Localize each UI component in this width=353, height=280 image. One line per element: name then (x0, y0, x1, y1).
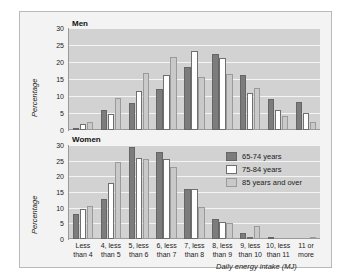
bar (156, 89, 162, 130)
bar-group (153, 28, 181, 130)
bar (129, 147, 135, 239)
bar-group (69, 145, 97, 239)
bar (219, 222, 225, 239)
y-tick-label: 25 (56, 42, 64, 49)
y-tick-label: 15 (56, 189, 64, 196)
y-tick-label: 30 (56, 142, 64, 149)
bar (115, 98, 121, 130)
bar-group (125, 145, 153, 239)
bar (143, 159, 149, 239)
bar (73, 214, 79, 239)
bar (108, 183, 114, 239)
legend-label: 85 years and over (242, 178, 302, 187)
bar (115, 162, 121, 239)
y-tick-label: 0 (60, 236, 64, 243)
bar (247, 237, 253, 239)
bar-group (153, 145, 181, 239)
y-tick-label: 20 (56, 173, 64, 180)
bar (282, 116, 288, 130)
bar (143, 73, 149, 130)
bar (296, 102, 302, 130)
legend-swatch (226, 165, 237, 174)
plot-area-men (69, 28, 320, 130)
bar (80, 209, 86, 239)
bar (170, 57, 176, 130)
y-tick-label: 10 (56, 93, 64, 100)
bar (129, 103, 135, 130)
legend: 65-74 years75-84 years85 years and over (226, 151, 326, 191)
bar (163, 75, 169, 130)
bar (136, 91, 142, 130)
bar (254, 226, 260, 239)
panel-title-men: Men (72, 20, 88, 28)
bar (87, 122, 93, 130)
bar-group (181, 28, 209, 130)
bar (212, 219, 218, 239)
legend-label: 75-84 years (242, 165, 282, 174)
bar (226, 223, 232, 239)
y-axis-ticks-men: 051015202530 (42, 28, 64, 130)
legend-label: 65-74 years (242, 152, 282, 161)
bar (163, 159, 169, 239)
bar-group (264, 28, 292, 130)
bar (268, 237, 274, 239)
y-tick-label: 15 (56, 76, 64, 83)
bar (136, 158, 142, 239)
y-tick-label: 0 (60, 127, 64, 134)
y-tick-label: 5 (60, 110, 64, 117)
y-axis-title-men: Percentage (30, 79, 39, 117)
panel-title-women: Women (72, 136, 101, 144)
bar (108, 114, 114, 130)
bar (80, 124, 86, 130)
y-tick-label: 25 (56, 157, 64, 164)
bar (87, 206, 93, 239)
bar (275, 110, 281, 130)
bar-group (236, 28, 264, 130)
bar (73, 128, 79, 130)
y-axis-ticks-women: 051015202530 (42, 145, 64, 239)
x-tick-label: 11 or more (288, 242, 324, 259)
bar (184, 189, 190, 239)
bar (226, 74, 232, 130)
bar (212, 54, 218, 130)
legend-swatch (226, 152, 237, 161)
bar (240, 75, 246, 130)
bar (191, 51, 197, 130)
bar (254, 88, 260, 130)
bar-group (181, 145, 209, 239)
bar-group (292, 28, 320, 130)
y-tick-label: 5 (60, 220, 64, 227)
bar-group (125, 28, 153, 130)
legend-swatch (226, 178, 237, 187)
bar-group (208, 28, 236, 130)
bar (101, 110, 107, 130)
bar-group (69, 28, 97, 130)
bar (170, 167, 176, 239)
bar (310, 122, 316, 130)
bar (198, 77, 204, 130)
bar (247, 93, 253, 130)
y-tick-label: 10 (56, 204, 64, 211)
bar (101, 199, 107, 239)
y-tick-label: 30 (56, 25, 64, 32)
bar (198, 207, 204, 239)
x-axis-title: Daily energy intake (MJ) (216, 262, 297, 271)
figure-frame: Men Percentage 051015202530 Women Percen… (19, 11, 332, 268)
bar (303, 113, 309, 130)
bar (268, 99, 274, 130)
bar (191, 189, 197, 239)
bar (310, 237, 316, 239)
bar (184, 67, 190, 130)
y-axis-title-women: Percentage (30, 196, 39, 234)
bar (240, 233, 246, 239)
y-tick-label: 20 (56, 59, 64, 66)
bar-group (97, 28, 125, 130)
bar-group (97, 145, 125, 239)
bar (219, 58, 225, 130)
x-axis-tick-labels: Less than 44, less than 55, less than 66… (69, 242, 320, 262)
bar (156, 152, 162, 239)
